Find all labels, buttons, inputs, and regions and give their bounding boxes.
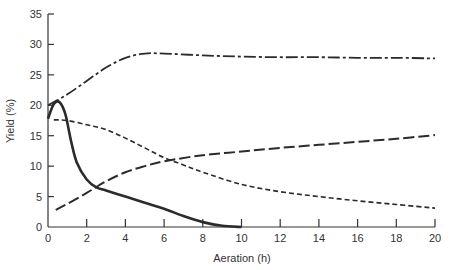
y-tick-label: 30	[30, 38, 42, 50]
y-tick-label: 5	[36, 191, 42, 203]
series-line-dash-dot	[48, 53, 435, 105]
y-tick-label: 20	[30, 99, 42, 111]
axes: 0246810121416182005101520253035	[30, 8, 441, 244]
x-tick-label: 0	[45, 232, 51, 244]
x-tick-label: 20	[429, 232, 441, 244]
x-tick-label: 4	[122, 232, 128, 244]
x-tick-label: 2	[84, 232, 90, 244]
x-tick-label: 12	[274, 232, 286, 244]
y-tick-label: 15	[30, 130, 42, 142]
x-tick-label: 8	[200, 232, 206, 244]
y-axis-title: Yield (%)	[4, 99, 16, 143]
x-axis-title: Aeration (h)	[213, 252, 270, 264]
series-line-long-dash	[56, 135, 435, 210]
series-line-short-dash	[54, 120, 435, 208]
y-tick-label: 35	[30, 8, 42, 20]
line-chart: 0246810121416182005101520253035 Aeration…	[0, 0, 450, 270]
x-tick-label: 14	[313, 232, 325, 244]
x-tick-label: 16	[351, 232, 363, 244]
series-line-solid	[48, 101, 242, 227]
x-tick-label: 10	[235, 232, 247, 244]
y-tick-label: 0	[36, 221, 42, 233]
y-tick-label: 25	[30, 69, 42, 81]
plot-area	[48, 53, 435, 227]
x-tick-label: 6	[161, 232, 167, 244]
y-tick-label: 10	[30, 160, 42, 172]
x-tick-label: 18	[390, 232, 402, 244]
